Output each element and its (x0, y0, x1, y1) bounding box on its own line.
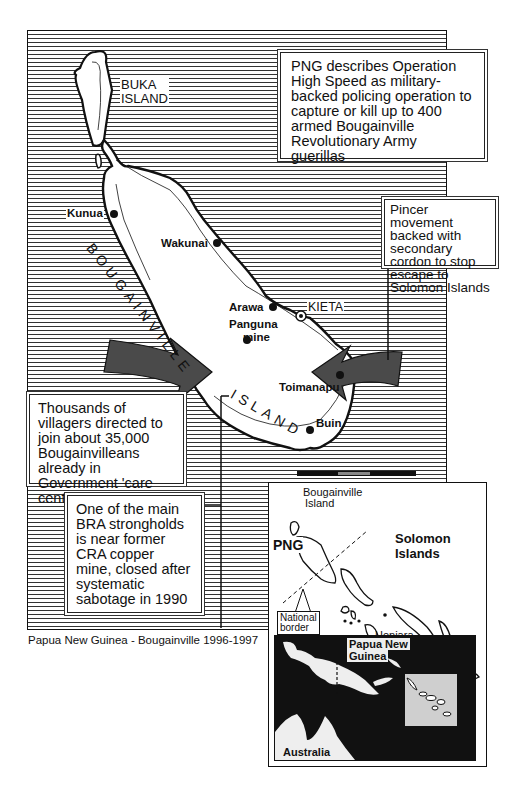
stronghold-callout-text: One of the main BRA strongholds is near … (76, 501, 190, 607)
toimanapu-label: Toimanapu (279, 381, 339, 393)
toimanapu-dot (336, 371, 344, 379)
inset-border-line2: border (280, 623, 317, 633)
kieta-label: KIETA (307, 300, 344, 314)
inset-solomon-line2: Islands (395, 546, 451, 561)
kunua-label: Kunua (66, 207, 104, 219)
arawa-dot (269, 303, 277, 311)
inset-border-label: National border (277, 611, 320, 635)
locator-map: Papua New Guinea Australia (274, 635, 476, 761)
buka-label-line1: BUKA (121, 78, 168, 92)
inset-png-label: PNG (273, 537, 303, 553)
locator-australia-label: Australia (281, 746, 332, 758)
arawa-label: Arawa (229, 301, 264, 313)
panguna-label: Panguna mine (229, 318, 278, 344)
villagers-callout-text: Thousands of villagers directed to join … (38, 400, 163, 506)
panguna-label-line2: mine (229, 331, 278, 344)
wakunai-label: Wakunai (161, 237, 208, 249)
operation-callout: PNG describes Operation High Speed as mi… (280, 52, 485, 159)
locator-png-line2: Guinea (347, 650, 388, 662)
islet-shape (96, 154, 101, 168)
map-caption: Papua New Guinea - Bougainville 1996-199… (28, 634, 258, 646)
buin-dot (306, 426, 314, 434)
pincer-callout: Pincer movement backed with secondary co… (384, 199, 496, 266)
wakunai-dot (213, 239, 221, 247)
buka-label-line2: ISLAND (121, 92, 168, 106)
inset-bougainville-line2: Island (303, 498, 362, 509)
operation-callout-text: PNG describes Operation High Speed as mi… (291, 58, 472, 164)
kunua-dot (110, 210, 118, 218)
inset-bougainville-label: Bougainville Island (303, 487, 362, 509)
buka-island-label: BUKA ISLAND (120, 78, 169, 106)
stronghold-callout: One of the main BRA strongholds is near … (67, 495, 202, 613)
buka-island-shape (75, 51, 112, 146)
inset-solomon-label: Solomon Islands (395, 531, 451, 561)
panguna-label-line1: Panguna (229, 318, 278, 331)
villagers-callout: Thousands of villagers directed to join … (29, 394, 184, 484)
pincer-callout-text: Pincer movement backed with secondary co… (390, 202, 490, 295)
buin-label: Buin (316, 417, 342, 429)
inset-solomon-line1: Solomon (395, 531, 451, 546)
inset-map: Bougainville Island PNG Solomon Islands … (268, 482, 487, 767)
locator-png-label: Papua New Guinea (347, 638, 410, 662)
locator-png-line1: Papua New (347, 638, 410, 650)
